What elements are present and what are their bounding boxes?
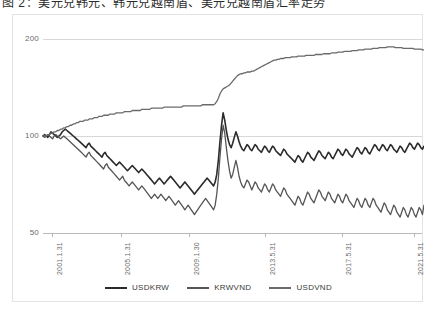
series-line-usdvnd	[43, 47, 424, 136]
legend-label: USDVND	[296, 283, 332, 292]
x-axis-label: 2021.5.31	[417, 242, 424, 275]
y-axis-label: 100	[13, 131, 39, 140]
chart-series-group	[43, 47, 424, 217]
chart-legend: USDKRWKRWVNDUSDVND	[13, 283, 424, 292]
x-axis-label: 2005.1.31	[124, 242, 131, 275]
x-axis-label: 2013.5.31	[269, 242, 276, 275]
series-line-usdkrw	[43, 113, 424, 194]
legend-swatch-icon	[187, 287, 209, 289]
x-axis-label: 2009.1.30	[193, 242, 200, 275]
legend-swatch-icon	[269, 287, 291, 289]
cropped-figure-caption-text: 图 2：美元兑韩元、韩元兑越南盾、美元兑越南盾汇率走势	[2, 0, 326, 10]
legend-swatch-icon	[105, 287, 127, 289]
legend-item-krwvnd[interactable]: KRWVND	[187, 283, 251, 292]
legend-item-usdvnd[interactable]: USDVND	[269, 283, 332, 292]
legend-item-usdkrw[interactable]: USDKRW	[105, 283, 169, 292]
cropped-figure-caption: 图 2：美元兑韩元、韩元兑越南盾、美元兑越南盾汇率走势	[0, 0, 435, 11]
chart-panel: 20010050 2001.1.312005.1.312009.1.302013…	[12, 14, 423, 302]
line-chart-plot	[13, 15, 424, 303]
legend-label: KRWVND	[214, 283, 251, 292]
gridlines	[43, 39, 422, 233]
x-axis-label: 2017.5.31	[345, 242, 352, 275]
y-axis-label: 200	[13, 34, 39, 43]
x-axis-ticks	[53, 233, 415, 237]
legend-label: USDKRW	[132, 283, 169, 292]
y-axis-label: 50	[13, 228, 39, 237]
x-axis-label: 2001.1.31	[56, 242, 63, 275]
